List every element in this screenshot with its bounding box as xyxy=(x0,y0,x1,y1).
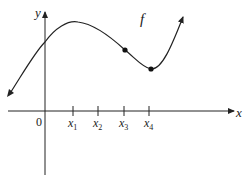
tick-labels: x1 x2 x3 x4 xyxy=(67,116,153,132)
svg-text:x1: x1 xyxy=(67,116,77,132)
function-label: f xyxy=(140,11,146,27)
y-axis-label: y xyxy=(33,5,41,20)
point-at-x4-minimum xyxy=(148,66,153,71)
svg-text:x2: x2 xyxy=(92,116,102,132)
svg-text:x4: x4 xyxy=(143,116,153,132)
point-at-x3 xyxy=(122,47,127,52)
function-curve xyxy=(9,17,183,95)
x-axis-label: x xyxy=(235,105,242,120)
origin-label: 0 xyxy=(36,115,42,129)
function-graph: f y x 0 x1 x2 x3 x4 xyxy=(0,0,244,186)
curve-left-arrow-icon xyxy=(7,89,14,97)
svg-text:x3: x3 xyxy=(118,116,128,132)
